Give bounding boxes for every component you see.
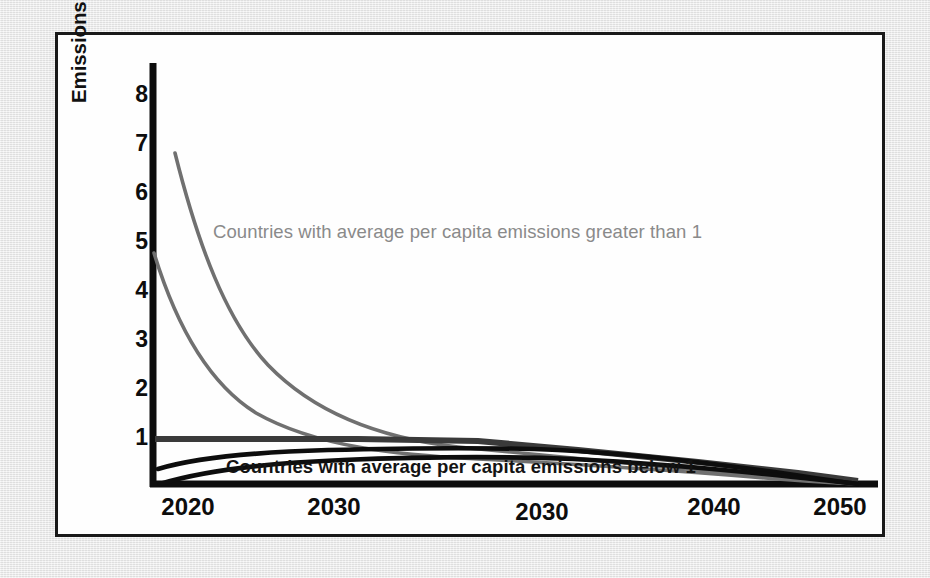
x-tick-label-2020: 2020 <box>161 493 214 521</box>
x-tick-label-2050: 2050 <box>813 493 866 521</box>
x-tick-label-2030-a: 2030 <box>307 493 360 521</box>
x-tick-label-2030-b: 2030 <box>515 498 568 526</box>
annotation-upper-group: Countries with average per capita emissi… <box>213 221 702 243</box>
chart-card: Emissions per Capita tonnes per Year 8 7… <box>55 32 885 537</box>
x-tick-label-2040: 2040 <box>687 493 740 521</box>
annotation-lower-group: Countries with average per capita emissi… <box>226 456 696 478</box>
